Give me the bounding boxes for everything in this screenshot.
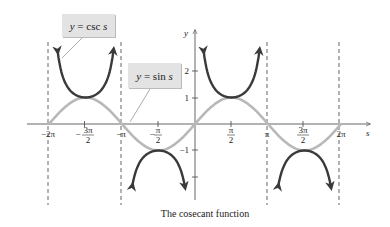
csc-branch-3 [204,51,260,98]
x-tick-pi2-den: 2 [229,135,234,145]
x-tick-pi: π [265,129,270,139]
x-tick-neg-pi2-den: 2 [156,135,161,145]
sin-label-s: s [168,70,172,82]
y-axis-label: y [183,28,188,38]
x-tick-pi2-num: π [229,125,234,135]
x-tick-neg-3pi2-den: 2 [86,135,91,145]
x-tick-neg-2pi: −2π [41,129,56,139]
cosecant-chart: s y −2π − 3π 2 −π − π 2 π 2 π 3π 2 2π [0,0,390,227]
csc-label-s: s [103,20,107,32]
csc-label-eq: = csc [75,20,104,32]
x-tick-2pi: 2π [336,129,346,139]
x-axis-label: s [366,128,370,138]
csc-branch-2 [132,151,185,187]
x-tick-labels: −2π − 3π 2 −π − π 2 π 2 π 3π 2 2π [41,125,346,145]
asymptotes [48,42,339,205]
csc-branch-4 [278,151,331,187]
sin-label-box: y = sin s [128,63,181,88]
x-tick-3pi2-den: 2 [301,135,306,145]
x-tick-3pi2-num: 3π [298,125,308,135]
y-tick-2: 2 [185,66,190,76]
sin-leader-line [130,89,150,122]
sin-label-eq: = sin [141,70,168,82]
y-tick-neg1: −1 [179,145,189,155]
x-tick-neg-pi2-num: π [156,125,161,135]
x-tick-neg-pi2-sign: − [149,129,154,139]
csc-leader-line [62,38,82,58]
csc-label-box: y = csc s [62,14,115,37]
x-tick-neg-3pi2-num: 3π [83,125,93,135]
chart-caption: The cosecant function [0,208,390,219]
x-tick-neg-3pi2-sign: − [75,129,80,139]
csc-branch-1 [58,51,114,98]
x-tick-neg-pi: −π [116,129,126,139]
y-tick-1: 1 [185,93,190,103]
